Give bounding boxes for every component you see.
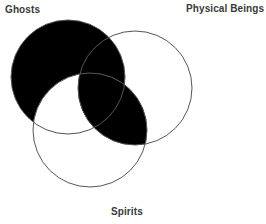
venn-diagram-figure: Ghosts Physical Beings Spirits xyxy=(0,0,266,224)
venn-diagram-svg xyxy=(0,0,266,224)
label-ghosts: Ghosts xyxy=(5,4,40,16)
label-spirits: Spirits xyxy=(111,206,143,218)
label-physical-beings: Physical Beings xyxy=(186,3,264,15)
